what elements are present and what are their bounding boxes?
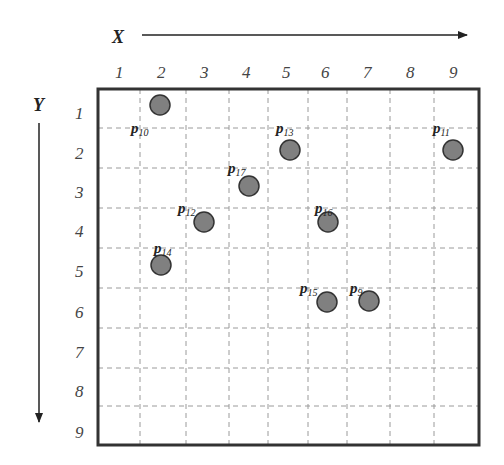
x-tick: 1: [115, 63, 124, 82]
point-marker: [317, 292, 337, 312]
x-axis-title: X: [111, 27, 125, 47]
point-label-subscript: 13: [284, 127, 294, 138]
point-label-subscript: 16: [323, 207, 333, 218]
x-tick: 5: [282, 63, 291, 82]
x-tick: 8: [406, 63, 415, 82]
point-marker: [194, 212, 214, 232]
point-label: p12: [176, 200, 196, 218]
x-tick: 2: [157, 63, 166, 82]
point-label-subscript: 10: [139, 127, 149, 138]
point-marker: [280, 140, 300, 160]
y-tick-labels: 1 2 3 4 5 6 7 8 9: [74, 104, 85, 442]
point-p13: p13: [274, 120, 300, 160]
x-tick: 9: [449, 63, 458, 82]
point-marker: [151, 255, 171, 275]
x-tick: 4: [242, 63, 251, 82]
point-marker: [150, 95, 170, 115]
point-label: p16: [313, 200, 333, 218]
point-label: p13: [274, 120, 294, 138]
point-label-subscript: 17: [236, 167, 247, 178]
y-axis-title: Y: [33, 95, 46, 115]
y-tick: 3: [74, 183, 84, 202]
grid-diagram: X Y 1 2 3 4 5 6 7 8 9 1 2 3 4 5 6 7 8 9: [0, 0, 504, 465]
point-p10: p10: [129, 95, 170, 138]
point-p12: p12: [176, 200, 214, 232]
y-tick: 5: [75, 262, 84, 281]
point-label-subscript: 11: [441, 127, 450, 138]
point-label: p17: [226, 160, 247, 178]
point-marker: [239, 176, 259, 196]
y-tick: 4: [75, 222, 84, 241]
x-tick: 3: [199, 63, 209, 82]
y-tick: 6: [75, 303, 84, 322]
point-p14: p14: [151, 240, 172, 275]
y-tick: 1: [75, 104, 84, 123]
point-p11: p11: [431, 120, 463, 160]
point-p16: p16: [313, 200, 338, 232]
y-tick: 9: [75, 423, 84, 442]
y-tick: 7: [75, 343, 85, 362]
point-label-subscript: 15: [308, 287, 318, 298]
point-p9: p9: [348, 280, 379, 311]
y-tick: 8: [75, 382, 84, 401]
x-tick: 6: [321, 63, 330, 82]
point-label: p14: [152, 240, 172, 258]
point-p17: p17: [226, 160, 259, 196]
y-tick: 2: [75, 144, 84, 163]
x-tick: 7: [363, 63, 373, 82]
point-label-subscript: 9: [358, 287, 363, 298]
point-p15: p15: [298, 280, 337, 312]
x-tick-labels: 1 2 3 4 5 6 7 8 9: [115, 63, 458, 82]
point-label: p11: [431, 120, 450, 138]
point-marker: [443, 140, 463, 160]
point-label-subscript: 14: [162, 247, 172, 258]
point-label: p9: [348, 280, 363, 298]
point-label: p10: [129, 120, 149, 138]
point-label-subscript: 12: [186, 207, 196, 218]
